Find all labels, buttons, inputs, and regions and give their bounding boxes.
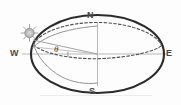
diagram-canvas: N S W E θ [0,0,181,105]
label-angle-theta: θ [54,45,58,54]
label-east: E [166,49,172,58]
label-north: N [87,11,94,20]
label-south: S [89,87,95,96]
sun-ray-line [33,40,98,54]
label-west: W [10,49,19,58]
great-circle-arc-upper [33,26,98,48]
sun-icon [21,25,38,42]
